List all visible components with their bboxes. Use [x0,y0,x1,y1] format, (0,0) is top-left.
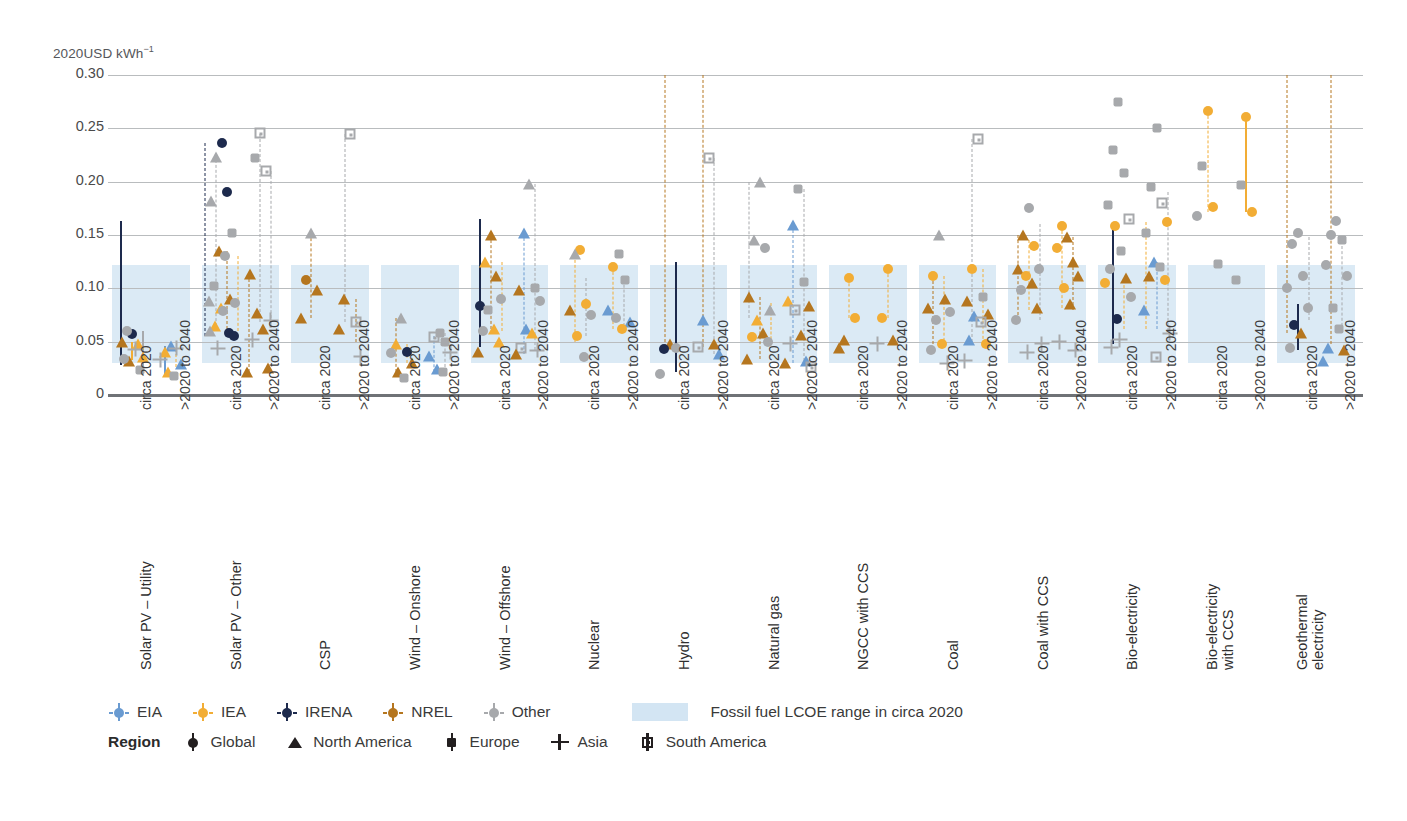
legend-source-label: IRENA [305,703,352,721]
data-point-marker [1017,230,1029,241]
data-point-marker [217,138,227,148]
legend-source-item[interactable]: IRENA [276,702,352,722]
x-axis-period-label: >2020 to 2040 [266,320,282,410]
data-point-marker [1067,256,1079,267]
value-range-stem [249,274,250,371]
y-axis-tick-label: 0.30 [52,65,104,81]
data-point-marker [933,230,945,241]
data-point-marker [295,313,307,324]
data-point-marker [693,342,704,353]
data-point-marker [311,285,323,296]
x-axis-period-label: circa 2020 [228,345,244,410]
data-point-marker [945,307,955,317]
data-point-marker [608,262,618,272]
y-axis-tick-label: 0.05 [52,332,104,348]
legend-source-item[interactable]: EIA [108,702,162,722]
chart-legend: EIAIEAIRENANRELOtherFossil fuel LCOE ran… [108,697,1308,757]
data-point-marker [1143,270,1155,281]
data-point-marker [1138,304,1150,315]
data-point-marker [1126,292,1136,302]
data-point-marker [523,178,535,189]
x-axis-category-label: CSP [317,640,333,670]
x-axis-period-label: circa 2020 [1035,345,1051,410]
data-point-marker [122,326,132,336]
data-point-marker [1303,303,1313,313]
x-axis-category-label: Coal [945,640,961,670]
data-point-marker [204,326,216,337]
legend-region-marker-icon [550,732,570,752]
data-point-marker [764,304,776,315]
data-point-marker [1282,283,1292,293]
data-point-marker [1016,285,1026,295]
data-point-marker [1011,315,1021,325]
x-axis-period-label: circa 2020 [497,345,513,410]
x-axis-period-label: circa 2020 [1214,345,1230,410]
data-point-marker [1061,232,1073,243]
x-axis-period-label: circa 2020 [317,345,333,410]
x-axis-period-label: circa 2020 [1304,345,1320,410]
value-range-stem [574,250,575,342]
x-axis-period-label: >2020 to 2040 [894,320,910,410]
legend-source-item[interactable]: NREL [382,702,452,722]
x-axis-category-label: Wind – Onshore [407,565,423,670]
gridline [108,75,1363,76]
data-point-marker [496,294,506,304]
data-point-marker [748,235,760,246]
data-point-marker [1147,183,1156,192]
legend-source-marker-icon [382,702,404,722]
x-axis-period-label: >2020 to 2040 [446,320,462,410]
legend-region-item[interactable]: Asia [550,732,608,752]
data-point-marker [614,250,623,259]
data-point-marker [967,264,977,274]
data-point-marker [1152,124,1161,133]
data-point-marker [429,332,440,343]
value-range-stem [238,256,239,331]
data-point-marker [972,134,983,145]
data-point-marker [611,313,621,323]
value-range-stem [260,134,261,323]
legend-region-item[interactable]: South America [638,732,767,752]
legend-source-label: EIA [137,703,162,721]
legend-region-item[interactable]: Global [183,732,256,752]
data-point-marker [1108,145,1117,154]
legend-region-marker-icon [183,732,203,752]
data-point-marker [1104,340,1119,355]
data-point-marker [518,227,530,238]
data-point-marker [479,256,491,267]
legend-source-item[interactable]: IEA [192,702,246,722]
legend-region-item[interactable]: Europe [442,732,520,752]
data-point-marker [333,323,345,334]
data-point-marker [1114,97,1123,106]
data-point-marker [1198,161,1207,170]
value-range-stem [1167,192,1168,331]
value-range-stem [703,75,704,347]
value-range-stem [1017,235,1018,315]
data-point-marker [485,230,497,241]
data-point-marker [760,243,770,253]
x-axis-period-label: >2020 to 2040 [177,320,193,410]
legend-region-marker-icon [442,732,462,752]
data-point-marker [741,353,753,364]
data-point-marker [928,271,938,281]
y-axis-title: 2020USD kWh−1 [53,44,154,61]
legend-source-marker-icon [108,702,130,722]
data-point-marker [218,306,228,316]
data-point-marker [1020,345,1035,360]
data-point-marker [564,304,576,315]
data-point-marker [1034,264,1044,274]
x-axis-category-label: Natural gas [766,596,782,670]
x-axis-period-label: >2020 to 2040 [356,320,372,410]
data-point-marker [790,304,801,315]
x-axis-period-label: >2020 to 2040 [1073,320,1089,410]
data-point-marker [1100,278,1110,288]
data-point-marker [255,127,266,138]
x-axis-period-label: circa 2020 [855,345,871,410]
legend-region-item[interactable]: North America [285,732,411,752]
data-point-marker [395,313,407,324]
data-point-marker [250,154,259,163]
data-point-marker [229,331,239,341]
y-axis-tick-label: 0 [52,385,104,401]
x-axis-period-label: circa 2020 [586,345,602,410]
data-point-marker [787,220,799,231]
legend-source-item[interactable]: Other [483,702,551,722]
